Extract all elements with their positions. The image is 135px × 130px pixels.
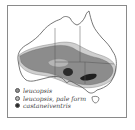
legend-item-leucopsis-pale: leucopsis, pale form — [15, 95, 86, 103]
legend-swatch-icon — [15, 103, 20, 108]
legend-label: castaneiventris — [23, 102, 71, 109]
legend-swatch-icon — [15, 88, 20, 93]
legend-item-castaneiventris: castaneiventris — [15, 102, 86, 110]
australia-distribution-map — [0, 0, 135, 130]
legend-label: leucopsis — [23, 87, 52, 94]
legend-swatch-icon — [15, 96, 20, 101]
tasmania-outline — [92, 96, 99, 103]
range-castaneiventris-1 — [63, 68, 73, 76]
legend-label: leucopsis, pale form — [23, 95, 86, 102]
map-legend: leucopsis leucopsis, pale form castaneiv… — [15, 87, 86, 110]
legend-item-leucopsis: leucopsis — [15, 87, 86, 95]
